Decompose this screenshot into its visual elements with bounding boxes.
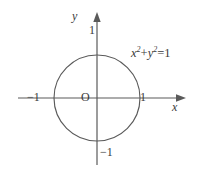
x-axis-arrowhead [176,94,186,101]
y-tick-label-negative-one: −1 [100,146,113,158]
x-axis-label: x [172,101,177,113]
x-tick-label-negative-one: −1 [27,91,40,103]
equation-plus-operator: + [141,46,148,60]
equation-right-hand-side: 1 [164,46,170,60]
y-tick-label-positive-one: 1 [89,24,95,36]
unit-circle-figure: y x 1 −1 −1 1 O x2+y2=1 [0,0,201,175]
y-axis-label: y [72,10,77,22]
y-axis-arrowhead [93,12,100,22]
origin-label: O [81,91,90,103]
x-tick-label-positive-one: 1 [140,91,146,103]
circle-equation-annotation: x2+y2=1 [131,47,171,60]
